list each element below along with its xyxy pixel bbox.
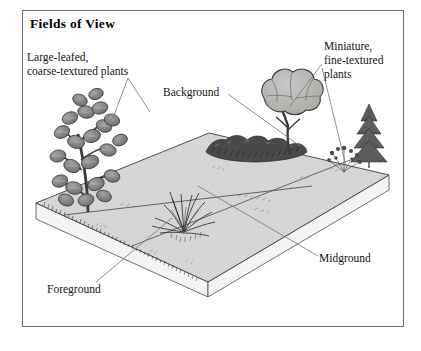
label-coarse-textured: Large-leafed, coarse-textured plants: [27, 50, 128, 78]
label-coarse-line2: coarse-textured plants: [27, 64, 128, 78]
label-fine-line2: fine-textured: [324, 53, 383, 67]
label-fine-line1: Miniature,: [324, 39, 383, 53]
label-foreground-line1: Foreground: [47, 282, 101, 296]
label-midground-line1: Midground: [319, 251, 371, 265]
label-foreground: Foreground: [47, 282, 101, 296]
label-fine-textured: Miniature, fine-textured plants: [324, 39, 383, 81]
label-midground: Midground: [319, 251, 371, 265]
figure-stage: Fields of View Large-leafed, coarse-text…: [0, 0, 421, 351]
label-coarse-line1: Large-leafed,: [27, 50, 128, 64]
label-background-line1: Background: [163, 85, 219, 99]
label-fine-line3: plants: [324, 67, 383, 81]
page-title: Fields of View: [30, 16, 115, 32]
label-background: Background: [163, 85, 219, 99]
